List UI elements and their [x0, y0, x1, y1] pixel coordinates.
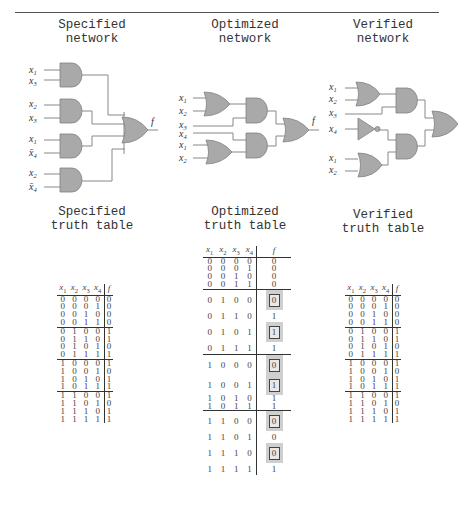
highlighted-value-box: 0: [266, 411, 283, 431]
title-line-1: Verified: [313, 208, 453, 222]
table-row: 01111: [203, 342, 291, 355]
input-cell: 1: [203, 354, 216, 375]
svg-text:x3: x3: [328, 107, 337, 119]
and-gate-icon: [60, 134, 82, 158]
title-line-2: truth table: [175, 219, 315, 233]
output-cell: 1: [257, 322, 292, 342]
input-cell: 0: [243, 354, 257, 375]
title-line-2: truth table: [22, 219, 162, 233]
optimized-table-title: Optimized truth table: [175, 205, 315, 233]
and-gate-icon: [60, 99, 82, 123]
input-cell: 1: [243, 342, 257, 355]
input-cell: 1: [203, 431, 216, 443]
input-cell: 1: [203, 403, 216, 411]
input-cell: 0: [230, 289, 243, 310]
output-label: f: [151, 116, 155, 127]
table-row: 11100: [203, 443, 291, 463]
svg-text:x2: x2: [328, 93, 337, 105]
or-gate-icon: [122, 117, 148, 143]
svg-text:x3: x3: [28, 75, 37, 87]
input-cell: 0: [230, 322, 243, 342]
table-row: 10111: [203, 403, 291, 411]
highlighted-value-box: 1: [266, 322, 283, 342]
input-cell: 1: [243, 431, 257, 443]
title-line-1: Optimized: [175, 205, 315, 219]
input-cell: 0: [243, 443, 257, 463]
input-cell: 0: [243, 411, 257, 432]
input-cell: 1: [230, 443, 243, 463]
highlighted-value-box: 0: [266, 355, 283, 375]
verified-network-diagram: x1 x2 x3 x4 x1 x2: [300, 0, 459, 200]
input-cell: 1: [243, 463, 257, 475]
input-cell: 0: [243, 289, 257, 310]
not-gate-icon: [358, 118, 375, 140]
table-row: 11111: [203, 463, 291, 475]
input-cell: 1: [80, 416, 92, 424]
svg-text:x2: x2: [178, 105, 187, 117]
input-cell: 0: [216, 403, 229, 411]
input-cell: 1: [243, 322, 257, 342]
output-cell: 0: [257, 411, 292, 432]
svg-text:x1: x1: [28, 133, 37, 145]
input-cell: 1: [216, 342, 229, 355]
optimized-network-diagram: x1 x2 x3 x4 x1 x2 f: [160, 0, 320, 200]
table-row: 11010: [203, 431, 291, 443]
or-gate-icon: [432, 111, 458, 137]
input-cell: 1: [216, 411, 229, 432]
input-cell: 0: [230, 354, 243, 375]
input-cell: 1: [230, 403, 243, 411]
table-row: 01101: [203, 310, 291, 322]
svg-text:x1: x1: [328, 81, 337, 93]
table-row: 11111: [57, 416, 113, 424]
input-cell: 1: [203, 443, 216, 463]
highlighted-value-box: 1: [266, 375, 283, 395]
input-cell: 1: [230, 281, 243, 289]
input-cell: 0: [230, 375, 243, 395]
input-cell: 1: [216, 322, 229, 342]
or-gate-icon: [358, 153, 382, 177]
svg-text:x2: x2: [328, 164, 337, 176]
specified-truth-table: x1x2x3x4f0000000010001000011001001011010…: [57, 284, 113, 423]
svg-text:x4: x4: [328, 123, 337, 135]
input-cell: 1: [230, 310, 243, 322]
or-gate-icon: [206, 140, 232, 164]
output-cell: 1: [257, 463, 292, 475]
table-row: 11111: [345, 416, 401, 424]
table-row: 01011: [203, 322, 291, 342]
input-cell: 1: [216, 289, 229, 310]
input-cell: 1: [243, 375, 257, 395]
title-line-1: Specified: [22, 205, 162, 219]
input-cell: 0: [230, 431, 243, 443]
and-gate-icon: [246, 98, 267, 123]
output-cell: 0: [257, 431, 292, 443]
input-cell: 0: [216, 281, 229, 289]
output-cell: 0: [257, 281, 292, 289]
table-row: 00110: [203, 281, 291, 289]
input-cell: 1: [203, 375, 216, 395]
title-line-2: truth table: [313, 222, 453, 236]
input-cell: 1: [230, 463, 243, 475]
input-cell: 1: [243, 281, 257, 289]
svg-text:x̄4: x̄4: [28, 181, 37, 193]
input-cell: 1: [203, 411, 216, 432]
input-cell: 1: [69, 416, 81, 424]
output-cell: 1: [257, 375, 292, 395]
input-cell: 1: [216, 431, 229, 443]
input-cell: 1: [203, 463, 216, 475]
output-cell: 1: [104, 416, 113, 424]
svg-text:x1: x1: [178, 139, 187, 151]
table-row: 01000: [203, 289, 291, 310]
highlighted-value-box: 0: [266, 443, 283, 463]
input-cell: 0: [203, 310, 216, 322]
inverter-bubble-icon: [375, 127, 380, 132]
table-row: 10011: [203, 375, 291, 395]
verified-table-title: Verified truth table: [313, 208, 453, 236]
input-cell: 0: [203, 281, 216, 289]
output-cell: 1: [257, 310, 292, 322]
input-cell: 1: [368, 416, 380, 424]
and-gate-icon: [246, 133, 267, 158]
input-cell: 1: [57, 416, 69, 424]
svg-text:x2: x2: [178, 152, 187, 164]
input-cell: 1: [216, 443, 229, 463]
and-gate-icon: [396, 134, 417, 159]
